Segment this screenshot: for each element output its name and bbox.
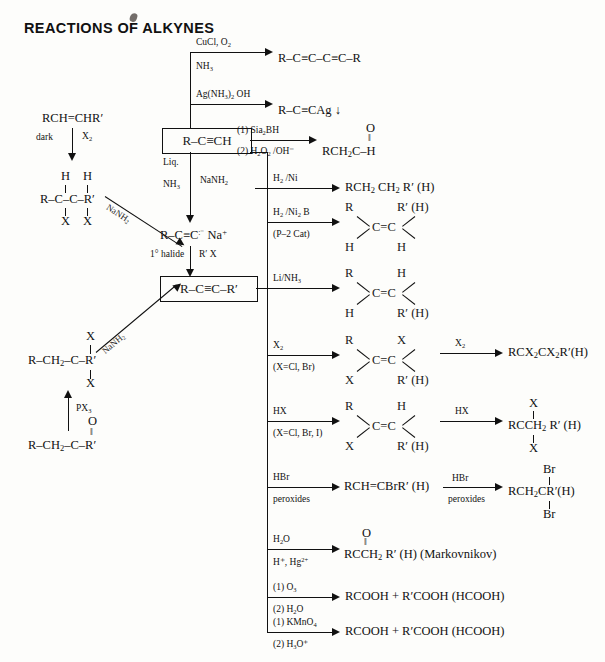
product-silver-acetylide: R–C≡CAg ↓ [278, 104, 341, 117]
reagent-cis-hydrogenation-top: H2 /Ni2 B [273, 208, 310, 218]
reagent-hx-scope: (X=Cl, Br, I) [273, 429, 322, 439]
cis-alkene-bond-tr [402, 216, 415, 227]
haloalkene-bond-tr [402, 415, 415, 426]
ketone-double-bond: ‖ [90, 427, 93, 438]
arrow-head-halogenation-1 [332, 351, 340, 359]
arrow-head-hbr-peroxide-2 [495, 483, 503, 491]
product-dihaloalkene: R X C=C X R′ (H) [345, 333, 431, 389]
reagent-hbr: HBr [273, 473, 289, 483]
trans-alkene-bond-tl [357, 282, 370, 293]
cis-alkene-tr: R′ (H) [397, 200, 429, 215]
arrow-shaft-cis-hydrogenation [267, 222, 335, 223]
reagent-x2: X2 [273, 341, 283, 351]
product-alkane: RCH2 CH2 R′ (H) [345, 181, 434, 195]
arrow-shaft-halogenation-down [72, 128, 73, 156]
markovnikov-double-bond: ‖ [364, 537, 367, 548]
node-vicinal-dihalide: H H R–C–C–R′ X X [40, 170, 150, 228]
reagent-hydrogenation: H2 /Ni [273, 174, 298, 184]
arrow-shaft-tollens [190, 104, 268, 105]
terminal-alkyne-label: R–C≡CH [182, 133, 231, 149]
reagent-liq-label: Liq. [163, 158, 179, 168]
internal-alkyne-label: R–C≡C–R′ [180, 281, 238, 297]
geminal-x-bottom: X [86, 377, 95, 390]
arrow-head-hydrogenation [332, 184, 340, 192]
reagent-coupling-top: CuCl, O2 [196, 38, 231, 48]
vicinal-h-right: H [83, 170, 92, 183]
aldehyde-core: RCH2C–H [322, 145, 376, 159]
arrow-shaft-hbr-peroxide-1 [267, 487, 335, 488]
label-rx-halide: R′ X [199, 250, 217, 260]
cis-alkene-bond-bl [357, 228, 370, 239]
arrow-head-tollens [265, 100, 273, 108]
label-x2-reagent: X2 [82, 132, 92, 142]
dihaloalkene-core: C=C [372, 353, 396, 368]
product-diyne: R–C≡C–C≡C–R [278, 52, 361, 65]
aldehyde-double-bond: ‖ [368, 133, 371, 144]
precipitate-arrow: ↓ [335, 103, 341, 117]
product-permanganate-acids: RCOOH + R′COOH (HCOOH) [345, 625, 504, 638]
arrow-shaft-hydrohalogenation-1 [267, 421, 335, 422]
vicinal-x-left: X [61, 215, 70, 228]
reagent-x2-second: X2 [455, 339, 465, 349]
cis-alkene-bond-tl [357, 216, 370, 227]
arrow-shaft-trans-reduction [267, 288, 335, 289]
reagent-water: H2O [273, 535, 290, 545]
arrow-shaft-halogenation-1 [267, 355, 335, 356]
haloalkene-tl: R [345, 399, 353, 414]
dihaloalkene-tl: R [345, 333, 353, 348]
dihaloalkene-bond-bl [357, 361, 370, 372]
haloalkene-bond-br [402, 427, 415, 438]
trans-alkene-bond-br [402, 294, 415, 305]
arrow-shaft-hydroboration [250, 140, 312, 141]
dihaloalkene-bond-tr [402, 349, 415, 360]
dihaloalkene-br: R′ (H) [397, 373, 429, 388]
gem-product-x-bottom: X [529, 442, 538, 455]
haloalkene-bl: X [345, 439, 354, 454]
reagent-x2-scope: (X=Cl, Br) [273, 363, 315, 373]
haloalkene-br: R′ (H) [397, 439, 429, 454]
product-tetrahaloalkane: RCX2CX2R′(H) [508, 346, 588, 360]
reagent-hx: HX [273, 407, 287, 417]
arrow-shaft-hydrohalogenation-2 [440, 421, 498, 422]
node-internal-alkyne-box[interactable]: R–C≡C–R′ [160, 276, 258, 302]
cis-alkene-br: H [397, 240, 406, 255]
arrow-head-halogenation-down [68, 153, 76, 161]
dihaloalkene-bond-tl [357, 349, 370, 360]
reagent-tollens: Ag(NH3)2 OH [196, 90, 250, 100]
reagent-hx-second: HX [455, 407, 469, 417]
product-vinyl-bromide: RCH=CBrR′ (H) [344, 480, 429, 493]
arrow-shaft-acetylide-formation [190, 152, 191, 218]
haloalkene-bond-tl [357, 415, 370, 426]
trans-alkene-bl: H [345, 306, 354, 321]
trans-alkene-bond-bl [357, 294, 370, 305]
vicinal-x-right: X [83, 215, 92, 228]
reagent-hbr-peroxides-second: peroxides [448, 495, 485, 505]
main-reaction-trunk [267, 185, 268, 632]
reagent-permanganate-workup: (2) H3O⁺ [273, 640, 308, 650]
reaction-scheme-page: REACTIONS OF ALKYNES RCH=CHR′ dark X2 H … [0, 0, 605, 662]
connector-terminal-elbow-v [267, 152, 268, 188]
product-ozonolysis-acids: RCOOH + R′COOH (HCOOH) [345, 590, 504, 603]
haloalkene-bond-bl [357, 427, 370, 438]
arrow-head-hbr-peroxide-1 [332, 483, 340, 491]
arrow-head-acetylide-formation [186, 215, 194, 223]
node-acetylide: R–C≡C:⁻ Na+ [160, 228, 227, 242]
arrow-head-hydrohalogenation-1 [332, 417, 340, 425]
haloalkene-tr: H [397, 399, 406, 414]
reagent-nh3-label: NH3 [163, 180, 180, 190]
trans-alkene-core: C=C [372, 286, 396, 301]
reagent-hbr-peroxides: peroxides [273, 495, 310, 505]
arrow-shaft-coupling [190, 52, 268, 53]
product-haloalkene: R H C=C X R′ (H) [345, 399, 431, 455]
arrow-head-hydrohalogenation-2 [495, 417, 503, 425]
cis-alkene-bl: H [345, 240, 354, 255]
reagent-acid-mercury: H⁺, Hg2+ [273, 557, 308, 568]
dibromo-core: RCH2CR′(H) [508, 485, 575, 499]
reagent-coupling-bottom: NH3 [196, 62, 213, 72]
gem-product-core: RCCH2 R′ (H) [508, 419, 581, 433]
arrow-head-permanganate [332, 628, 340, 636]
reagent-ozonolysis-workup: (2) H2O [273, 605, 303, 615]
vicinal-core: R–C–C–R′ [40, 193, 95, 206]
trans-alkene-bond-tr [402, 282, 415, 293]
label-dark: dark [36, 133, 53, 143]
